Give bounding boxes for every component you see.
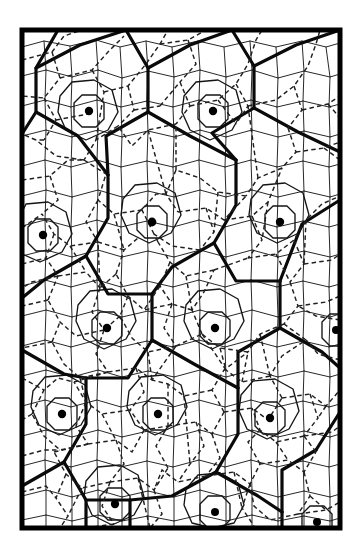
- tessellation-figure: [0, 0, 362, 554]
- nucleus-dot: [58, 410, 66, 418]
- nucleus-dot: [85, 107, 93, 115]
- nucleus-dot: [154, 410, 162, 418]
- nucleus-dot: [276, 218, 284, 226]
- nucleus-dot: [209, 107, 217, 115]
- nucleus-dot: [313, 518, 321, 526]
- nucleus-dot: [103, 324, 111, 332]
- nucleus-dot: [148, 218, 157, 227]
- nucleus-dot: [111, 500, 119, 508]
- nucleus-dot: [211, 324, 219, 332]
- nucleus-dot: [211, 508, 219, 516]
- figure-root: [0, 0, 362, 554]
- nucleus-dot: [266, 414, 274, 422]
- nucleus-dot: [39, 231, 47, 239]
